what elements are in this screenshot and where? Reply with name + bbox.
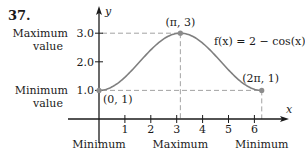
- x-annotation: Minimum: [235, 138, 289, 151]
- max-value-label: Maximum: [13, 27, 69, 40]
- x-tick-label: 1: [121, 123, 128, 136]
- min-value-label: Minimum: [15, 84, 69, 97]
- problem-number: 37.: [8, 8, 31, 23]
- x-tick-label: 6: [251, 123, 258, 136]
- y-tick-label: 2.0: [77, 56, 95, 69]
- y-tick-label: 3.0: [77, 27, 95, 40]
- key-point: [178, 31, 183, 36]
- point-label: (2π, 1): [242, 72, 279, 85]
- x-tick-label: 2: [147, 123, 154, 136]
- function-graph: 37. xy1234561.02.03.0(0, 1)(π, 3)(2π, 1)…: [0, 0, 305, 153]
- x-tick-label: 4: [199, 123, 206, 136]
- point-label: (0, 1): [103, 93, 133, 106]
- key-point: [259, 88, 264, 93]
- point-label: (π, 3): [165, 16, 195, 29]
- x-tick-label: 5: [225, 123, 232, 136]
- x-annotation: Minimum: [72, 138, 126, 151]
- max-value-label: value: [32, 40, 63, 53]
- x-tick-label: 3: [173, 123, 180, 136]
- x-annotation: Maximum: [153, 138, 209, 151]
- labels: xy1234561.02.03.0(0, 1)(π, 3)(2π, 1)f(x)…: [13, 5, 306, 151]
- function-label: f(x) = 2 − cos(x): [214, 35, 305, 48]
- y-axis-label: y: [104, 5, 112, 18]
- min-value-label: value: [32, 97, 63, 110]
- key-point: [96, 88, 101, 93]
- x-axis-label: x: [286, 103, 293, 116]
- y-tick-label: 1.0: [77, 84, 95, 97]
